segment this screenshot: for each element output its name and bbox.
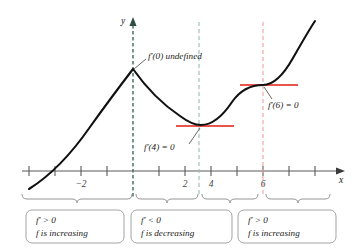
brace-segment-2 bbox=[136, 194, 198, 203]
annotation-inflection: f′(6) = 0 bbox=[264, 87, 299, 110]
leader-line-inflection bbox=[264, 87, 272, 99]
x-axis-label: x bbox=[338, 175, 344, 185]
interval-3-line1: f′ > 0 bbox=[248, 215, 268, 225]
leader-line-cusp bbox=[134, 59, 146, 69]
annotation-minimum: f′(4) = 0 bbox=[144, 128, 200, 152]
tick-label-2: 2 bbox=[183, 179, 188, 189]
interval-1-line2: f is increasing bbox=[36, 228, 88, 238]
interval-2-line1: f′ < 0 bbox=[141, 215, 161, 225]
calculus-figure: −2 2 4 6 x y f′(0) undefined f′(4) = 0 bbox=[0, 0, 352, 248]
x-axis-arrowhead bbox=[336, 167, 345, 174]
brace-segment-3 bbox=[202, 194, 258, 203]
interval-box-2: f′ < 0 f is decreasing bbox=[131, 210, 232, 243]
figure-canvas: −2 2 4 6 x y f′(0) undefined f′(4) = 0 bbox=[0, 0, 352, 248]
interval-3-line2: f is increasing bbox=[248, 228, 300, 238]
annotation-inflection-label: f′(6) = 0 bbox=[268, 100, 299, 110]
tick-label-neg2: −2 bbox=[75, 179, 86, 189]
tick-label-4: 4 bbox=[209, 179, 214, 189]
annotation-minimum-label: f′(4) = 0 bbox=[144, 142, 175, 152]
interval-box-1: f′ > 0 f is increasing bbox=[26, 210, 124, 243]
annotation-cusp-label: f′(0) undefined bbox=[148, 51, 202, 61]
interval-braces bbox=[22, 194, 330, 203]
x-axis bbox=[22, 167, 345, 174]
annotation-cusp: f′(0) undefined bbox=[134, 51, 202, 69]
interval-2-line2: f is decreasing bbox=[141, 228, 195, 238]
interval-box-3: f′ > 0 f is increasing bbox=[238, 210, 336, 243]
interval-1-line1: f′ > 0 bbox=[36, 215, 56, 225]
y-axis-label: y bbox=[120, 16, 126, 26]
brace-segment-1 bbox=[22, 194, 132, 203]
brace-segment-4 bbox=[266, 194, 330, 203]
y-axis-arrowhead bbox=[129, 17, 136, 26]
leader-line-minimum bbox=[189, 128, 200, 144]
